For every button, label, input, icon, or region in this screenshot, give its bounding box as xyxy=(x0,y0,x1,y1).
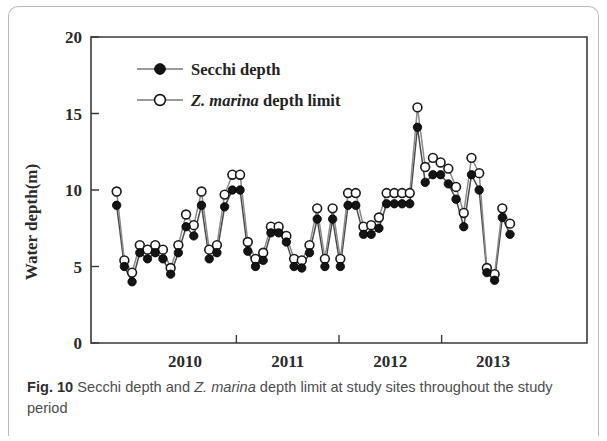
data-point-zmarina xyxy=(351,189,360,198)
data-point-secchi xyxy=(182,223,190,231)
data-point-secchi xyxy=(228,186,236,194)
data-point-secchi xyxy=(444,180,452,188)
figure-number: Fig. 10 xyxy=(27,379,73,395)
chart-series xyxy=(112,103,514,286)
data-point-secchi xyxy=(290,262,298,270)
data-point-secchi xyxy=(143,255,151,263)
data-point-secchi xyxy=(490,276,498,284)
data-point-zmarina xyxy=(189,221,198,230)
data-point-secchi xyxy=(398,200,406,208)
data-point-zmarina xyxy=(498,204,507,213)
chart-frame xyxy=(91,37,587,343)
chart-axes xyxy=(91,37,587,343)
data-point-zmarina xyxy=(405,189,414,198)
data-point-secchi xyxy=(282,238,290,246)
data-point-secchi xyxy=(359,230,367,238)
data-point-secchi xyxy=(483,268,491,276)
data-point-secchi xyxy=(205,255,213,263)
data-point-secchi xyxy=(352,201,360,209)
data-point-secchi xyxy=(475,186,483,194)
data-point-secchi xyxy=(460,223,468,231)
data-point-secchi xyxy=(313,215,321,223)
x-tick-label: 2011 xyxy=(271,352,304,371)
data-point-secchi xyxy=(375,224,383,232)
data-point-secchi xyxy=(390,200,398,208)
data-point-zmarina xyxy=(313,204,322,213)
data-point-zmarina xyxy=(475,169,484,178)
x-tick-label: 2013 xyxy=(476,352,510,371)
chart-legend: Secchi depthZ. marina depth limit xyxy=(137,60,341,110)
chart-plot-area: 05101520 2010201120122013 Water depth(m)… xyxy=(9,7,599,373)
data-point-zmarina xyxy=(436,158,445,167)
data-point-secchi xyxy=(128,278,136,286)
data-point-secchi xyxy=(467,171,475,179)
data-point-secchi xyxy=(236,186,244,194)
data-point-secchi xyxy=(498,213,506,221)
data-point-secchi xyxy=(367,230,375,238)
x-tick-label: 2010 xyxy=(168,352,202,371)
data-point-secchi xyxy=(220,203,228,211)
data-point-zmarina xyxy=(236,170,245,179)
data-point-zmarina xyxy=(128,268,137,277)
data-point-zmarina xyxy=(112,187,121,196)
data-point-secchi xyxy=(112,201,120,209)
y-tick-label: 0 xyxy=(74,334,83,353)
caption-species-name: Z. marina xyxy=(194,379,256,395)
y-tick-label: 10 xyxy=(65,181,82,200)
data-point-zmarina xyxy=(220,190,229,199)
data-point-secchi xyxy=(336,262,344,270)
y-tick-label: 15 xyxy=(65,105,82,124)
data-point-secchi xyxy=(305,249,313,257)
legend-label-1: Z. marina depth limit xyxy=(190,91,341,110)
data-point-zmarina xyxy=(197,187,206,196)
data-point-secchi xyxy=(436,171,444,179)
y-axis-ticks: 05101520 xyxy=(65,28,99,353)
data-point-secchi xyxy=(120,262,128,270)
data-point-zmarina xyxy=(467,153,476,162)
data-point-zmarina xyxy=(375,213,384,222)
data-point-secchi xyxy=(267,229,275,237)
data-point-secchi xyxy=(421,178,429,186)
data-point-zmarina xyxy=(506,219,515,228)
data-point-secchi xyxy=(197,201,205,209)
data-point-secchi xyxy=(174,249,182,257)
data-point-secchi xyxy=(328,215,336,223)
data-point-zmarina xyxy=(452,183,461,192)
data-point-zmarina xyxy=(459,209,468,218)
legend-species-name: Z. marina xyxy=(190,91,259,110)
y-tick-label: 20 xyxy=(65,28,82,47)
data-point-secchi xyxy=(213,249,221,257)
data-point-secchi xyxy=(190,232,198,240)
data-point-secchi xyxy=(298,264,306,272)
data-point-secchi xyxy=(382,200,390,208)
legend-marker-zmarina xyxy=(155,95,166,106)
series-line-secchi xyxy=(117,127,510,282)
data-point-secchi xyxy=(159,255,167,263)
data-point-zmarina xyxy=(328,204,337,213)
secchi-depth-line-chart: 05101520 2010201120122013 Water depth(m)… xyxy=(9,7,599,373)
data-point-zmarina xyxy=(367,221,376,230)
caption-part-1: Secchi depth and xyxy=(73,379,194,395)
legend-label-tail: depth limit xyxy=(259,91,341,110)
y-tick-label: 5 xyxy=(74,258,83,277)
x-tick-label: 2012 xyxy=(373,352,407,371)
figure-card: 05101520 2010201120122013 Water depth(m)… xyxy=(8,6,599,436)
data-point-zmarina xyxy=(182,210,191,219)
data-point-secchi xyxy=(413,123,421,131)
data-point-secchi xyxy=(406,200,414,208)
data-point-secchi xyxy=(251,262,259,270)
legend-marker-secchi xyxy=(155,64,166,75)
figure-caption: Fig. 10 Secchi depth and Z. marina depth… xyxy=(27,377,583,418)
data-point-zmarina xyxy=(159,245,168,254)
data-point-secchi xyxy=(166,270,174,278)
data-point-secchi xyxy=(259,256,267,264)
data-point-zmarina xyxy=(444,164,453,173)
y-axis-title: Water depth(m) xyxy=(22,164,41,280)
data-point-secchi xyxy=(244,247,252,255)
data-point-secchi xyxy=(506,230,514,238)
data-point-secchi xyxy=(429,171,437,179)
data-point-zmarina xyxy=(421,163,430,172)
data-point-secchi xyxy=(274,229,282,237)
data-point-zmarina xyxy=(413,103,422,112)
legend-label-0: Secchi depth xyxy=(191,60,280,79)
